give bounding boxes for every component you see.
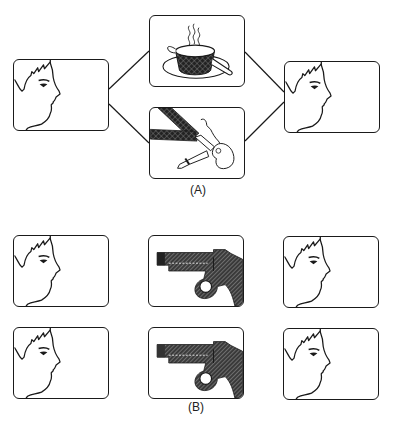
soup-bowl-icon [150, 16, 244, 86]
panel-b-row2-left-face-shot [13, 327, 109, 399]
revolver-icon [149, 236, 243, 306]
panel-a-left-face-shot [13, 59, 109, 131]
panel-a-right-face-shot [284, 61, 380, 133]
panel-b-caption: (B) [176, 400, 216, 414]
face-profile-icon [14, 236, 108, 306]
face-profile-icon [285, 62, 379, 132]
panel-a-caption: (A) [178, 183, 218, 197]
panel-a-soup-bowl-shot [149, 15, 245, 87]
figure: (A) (B) [0, 0, 393, 425]
revolver-icon [149, 328, 243, 398]
woman-lying-icon [150, 108, 244, 178]
panel-b-row1-right-face-shot [283, 236, 379, 308]
face-profile-icon [14, 60, 108, 130]
face-profile-icon [14, 328, 108, 398]
face-profile-icon [284, 329, 378, 399]
face-profile-icon [284, 237, 378, 307]
panel-b-row1-revolver-shot [148, 235, 244, 307]
panel-a-woman-on-floor-shot [149, 107, 245, 179]
panel-b-row2-revolver-shot [148, 327, 244, 399]
panel-b-row1-left-face-shot [13, 235, 109, 307]
panel-b-row2-right-face-shot [283, 328, 379, 400]
